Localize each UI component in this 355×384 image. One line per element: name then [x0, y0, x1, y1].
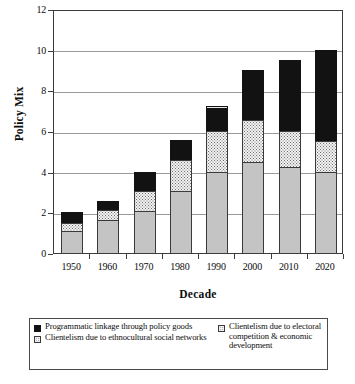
- bar-segment-dotted: [206, 131, 228, 172]
- legend-item-programmatic: Programmatic linkage through policy good…: [34, 322, 218, 332]
- black-square-icon: [34, 325, 41, 332]
- bar-2000: [242, 70, 264, 253]
- x-tick-mark: [126, 254, 127, 259]
- x-tick-label-1990: 1990: [199, 261, 233, 272]
- x-tick-label-2000: 2000: [235, 261, 269, 272]
- bar-1960: [97, 201, 119, 253]
- bar-segment-black: [61, 212, 83, 222]
- bar-segment-black: [206, 106, 228, 131]
- dotted-square-icon: [218, 325, 225, 332]
- legend-label: Programmatic linkage through policy good…: [45, 322, 192, 332]
- legend-item-electoral: Clientelism due to electoral competition…: [218, 322, 323, 351]
- gridline: [54, 51, 342, 52]
- x-tick-mark: [271, 254, 272, 259]
- x-tick-mark: [307, 254, 308, 259]
- bar-segment-light-gray: [134, 211, 156, 253]
- bar-segment-dotted: [97, 210, 119, 220]
- bar-segment-light-gray: [61, 231, 83, 253]
- bar-segment-light-gray: [206, 172, 228, 253]
- legend-column-right: Clientelism due to electoral competition…: [218, 322, 323, 367]
- y-axis: 024681012: [0, 0, 53, 264]
- x-axis-title: Decade: [53, 288, 343, 300]
- bar-2020: [315, 50, 337, 253]
- bar-1950: [61, 212, 83, 253]
- bar-segment-light-gray: [279, 167, 301, 253]
- bar-segment-dotted: [170, 160, 192, 191]
- x-tick-mark: [198, 254, 199, 259]
- bar-segment-dotted: [61, 223, 83, 231]
- y-tick-label: 6: [41, 127, 46, 137]
- bar-segment-black: [279, 60, 301, 131]
- bar-segment-light-gray: [242, 162, 264, 254]
- bar-segment-light-gray: [97, 220, 119, 253]
- bar-segment-black: [97, 201, 119, 210]
- bar-segment-light-gray: [315, 172, 337, 253]
- x-axis: 19501960197019801990200020102020: [53, 254, 343, 280]
- x-tick-mark: [89, 254, 90, 259]
- legend-label: Clientelism due to ethnocultural social …: [45, 333, 207, 343]
- x-tick-label-1960: 1960: [90, 261, 124, 272]
- bar-1980: [170, 140, 192, 253]
- bar-segment-dotted: [315, 141, 337, 172]
- x-tick-mark: [162, 254, 163, 259]
- bar-1990: [206, 106, 228, 253]
- x-tick-label-1980: 1980: [163, 261, 197, 272]
- bar-segment-dotted: [242, 120, 264, 162]
- x-tick-label-1970: 1970: [127, 261, 161, 272]
- bar-1970: [134, 172, 156, 253]
- y-tick-label: 4: [41, 168, 46, 178]
- dotted-square-icon: [34, 336, 41, 343]
- bar-segment-black: [242, 70, 264, 120]
- policy-mix-stacked-bar-chart: 024681012 Policy Mix 1950196019701980199…: [0, 0, 355, 384]
- plot-area: [53, 10, 343, 254]
- chart-legend: Programmatic linkage through policy good…: [29, 318, 328, 370]
- x-tick-label-2010: 2010: [272, 261, 306, 272]
- x-tick-label-1950: 1950: [54, 261, 88, 272]
- bar-segment-black: [134, 172, 156, 191]
- bar-segment-black: [315, 50, 337, 142]
- legend-item-ethnocultural: Clientelism due to ethnocultural social …: [34, 333, 218, 343]
- y-tick-label: 8: [41, 86, 46, 96]
- x-tick-mark: [343, 254, 344, 259]
- y-tick-label: 12: [36, 5, 46, 15]
- bar-segment-black: [170, 140, 192, 160]
- x-tick-mark: [234, 254, 235, 259]
- legend-label: Clientelism due to electoral competition…: [229, 322, 323, 351]
- legend-column-left: Programmatic linkage through policy good…: [34, 322, 218, 367]
- y-axis-title: Policy Mix: [13, 69, 25, 159]
- bar-segment-light-gray: [170, 191, 192, 253]
- y-tick-label: 10: [36, 46, 46, 56]
- bar-2010: [279, 60, 301, 253]
- bar-segment-dotted: [279, 131, 301, 167]
- y-tick-label: 2: [41, 208, 46, 218]
- bar-segment-dotted: [134, 191, 156, 211]
- x-tick-label-2020: 2020: [308, 261, 342, 272]
- y-tick-label: 0: [41, 249, 46, 259]
